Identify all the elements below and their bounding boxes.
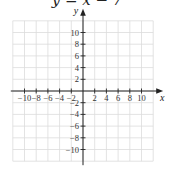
x-tick-label: −4 [55, 93, 65, 103]
y-tick-label: 10 [71, 28, 80, 38]
y-axis-arrow-icon [80, 9, 86, 16]
x-tick-label: −6 [43, 93, 52, 103]
y-tick-label: −2 [70, 98, 79, 108]
y-tick-label: −8 [70, 133, 79, 143]
coordinate-grid: −10−8−6−4−2246810108642−2−4−6−8−10xy [0, 0, 174, 171]
x-tick-label: −10 [18, 93, 31, 103]
x-axis-label: x [159, 92, 165, 103]
y-tick-label: −10 [66, 145, 79, 155]
y-tick-label: 6 [75, 51, 79, 61]
x-tick-label: 4 [104, 93, 109, 103]
x-tick-label: 10 [137, 93, 146, 103]
y-axis-label: y [73, 5, 79, 16]
y-tick-label: −4 [70, 109, 80, 119]
x-tick-label: 2 [93, 93, 97, 103]
y-tick-label: −6 [70, 121, 79, 131]
x-tick-label: 6 [116, 93, 120, 103]
x-tick-label: −8 [32, 93, 41, 103]
y-tick-label: 2 [75, 74, 79, 84]
y-tick-label: 8 [75, 39, 79, 49]
x-tick-label: 8 [128, 93, 132, 103]
